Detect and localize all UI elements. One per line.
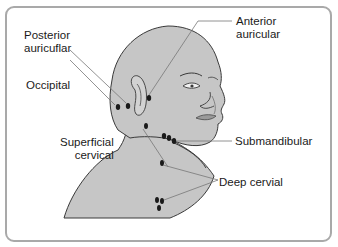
label-posterior-auricular: Posterior auricuflar bbox=[24, 29, 71, 55]
label-deep-cervical: Deep cervial bbox=[218, 176, 284, 189]
node-anterior-auricular bbox=[147, 95, 151, 101]
label-submandibular: Submandibular bbox=[235, 135, 312, 148]
label-occipital: Occipital bbox=[26, 79, 70, 92]
node-deep-cervical-3 bbox=[160, 198, 164, 204]
node-submandibular-2 bbox=[167, 135, 171, 141]
node-submandibular-3 bbox=[172, 138, 176, 144]
head-shape bbox=[110, 26, 225, 146]
node-superficial-cervical bbox=[144, 123, 148, 129]
node-submandibular-1 bbox=[162, 133, 166, 139]
node-deep-cervical-2 bbox=[155, 197, 159, 203]
node-occipital bbox=[116, 104, 120, 110]
label-superficial-cervical: Superficial cervical bbox=[60, 136, 114, 162]
node-posterior-auricular bbox=[126, 103, 130, 109]
label-anterior-auricular: Anterior auricular bbox=[236, 15, 280, 41]
node-deep-cervical-4 bbox=[157, 205, 161, 211]
